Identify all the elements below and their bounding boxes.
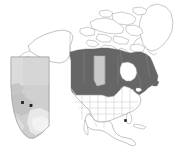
site-marker-inset-east bbox=[30, 104, 33, 107]
region-alberta-highlight bbox=[94, 56, 105, 86]
region-canada bbox=[70, 48, 159, 97]
marker-layer-main-map bbox=[124, 119, 127, 122]
site-marker-inset-west bbox=[21, 101, 24, 104]
alberta-inset-map bbox=[11, 57, 49, 138]
map-canvas bbox=[0, 0, 176, 149]
region-arctic-archipelago bbox=[80, 7, 147, 55]
site-marker-main-map bbox=[124, 119, 127, 122]
map-figure bbox=[0, 0, 176, 149]
